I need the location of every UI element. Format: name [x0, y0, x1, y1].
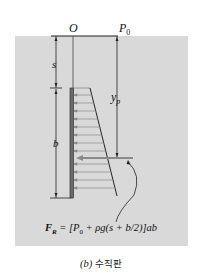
- vertical-plate: [70, 88, 74, 198]
- resultant-force-formula: FR = [P0 + ρg(s + b/2)]ab: [0, 222, 202, 236]
- arrowhead-icon: [76, 155, 83, 161]
- origin-label: O: [69, 22, 78, 34]
- p0-label: P0: [119, 22, 130, 39]
- figure-caption: (b) 수직판: [0, 256, 202, 270]
- arrowhead-icon: [116, 153, 119, 157]
- arrowhead-icon: [55, 37, 58, 41]
- b-label: b: [53, 137, 59, 149]
- pressure-arrows: [74, 94, 115, 189]
- arrowhead-icon: [55, 193, 58, 197]
- arrowhead-icon: [55, 83, 58, 87]
- yp-label: yp: [111, 91, 120, 108]
- arrowhead-icon: [55, 90, 58, 94]
- s-label: s: [52, 58, 56, 70]
- leader-line: [116, 162, 137, 222]
